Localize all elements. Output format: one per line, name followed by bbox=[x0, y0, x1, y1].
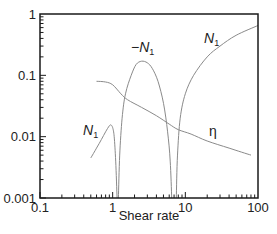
x-tick-label: 1 bbox=[109, 200, 116, 215]
curve--n1 bbox=[118, 61, 171, 198]
curve-n1-high-shear- bbox=[176, 26, 258, 199]
y-tick-label: 1 bbox=[29, 7, 36, 22]
annotation-neg-n1: −N1 bbox=[131, 39, 154, 57]
y-tick-label: 0.001 bbox=[3, 191, 36, 206]
x-axis-label: Shear rate bbox=[119, 208, 180, 223]
annotation-n1-high: N1 bbox=[204, 30, 219, 48]
log-log-chart: 0.11101000.0010.010.11 Shear rate N1 −N1… bbox=[0, 0, 277, 234]
annotation-n1-low: N1 bbox=[83, 122, 98, 140]
data-curves bbox=[91, 26, 258, 199]
curve-eta bbox=[97, 81, 252, 155]
annotation-eta: η bbox=[209, 123, 217, 139]
axis-tick-labels: 0.11101000.0010.010.11 bbox=[3, 7, 268, 216]
x-tick-label: 100 bbox=[247, 200, 269, 215]
x-tick-label: 10 bbox=[178, 200, 192, 215]
y-tick-label: 0.1 bbox=[18, 68, 36, 83]
y-tick-label: 0.01 bbox=[11, 129, 36, 144]
